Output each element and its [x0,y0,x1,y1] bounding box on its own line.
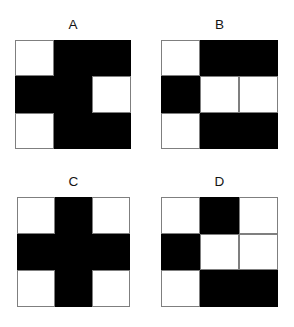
pattern-grid-a [15,40,131,149]
grid-cell-white [239,76,278,112]
grid-cell-black [17,234,55,271]
grid-cell-white [200,234,239,271]
grid-cell-white [161,113,200,149]
grid-cell-black [239,113,278,149]
grid-cell-black [161,76,200,112]
figure-label-a: A [68,18,77,32]
figure-panel-a: A [15,18,131,149]
grid-cell-white [17,197,55,234]
grid-cell-white [15,113,54,149]
grid-cell-black [54,76,93,112]
grid-cell-black [200,270,239,307]
grid-cell-white [92,270,130,307]
pattern-grid-c [17,197,130,307]
grid-cell-white [200,76,239,112]
grid-cell-black [55,234,93,271]
grid-cell-black [161,234,200,271]
grid-cell-white [239,234,278,271]
grid-cell-white [161,270,200,307]
figure-label-b: B [215,18,224,32]
grid-cell-black [92,234,130,271]
grid-cell-white [161,40,200,76]
grid-cell-black [92,113,131,149]
grid-cell-black [54,113,93,149]
grid-cell-black [200,40,239,76]
pattern-grid-d [161,197,278,307]
grid-cell-white [92,197,130,234]
grid-cell-white [92,76,131,112]
grid-cell-black [55,270,93,307]
grid-cell-black [200,113,239,149]
grid-cell-black [239,270,278,307]
pattern-grid-board: A B C D [0,0,294,327]
grid-cell-black [54,40,93,76]
figure-panel-b: B [161,18,278,149]
pattern-grid-b [161,40,278,149]
grid-cell-black [15,76,54,112]
grid-cell-white [161,197,200,234]
grid-cell-black [200,197,239,234]
figure-label-c: C [69,175,79,189]
grid-cell-white [15,40,54,76]
figure-label-d: D [215,175,225,189]
grid-cell-black [239,40,278,76]
grid-cell-white [17,270,55,307]
grid-cell-white [239,197,278,234]
figure-panel-c: C [17,175,130,307]
grid-cell-black [55,197,93,234]
figure-panel-d: D [161,175,278,307]
grid-cell-black [92,40,131,76]
